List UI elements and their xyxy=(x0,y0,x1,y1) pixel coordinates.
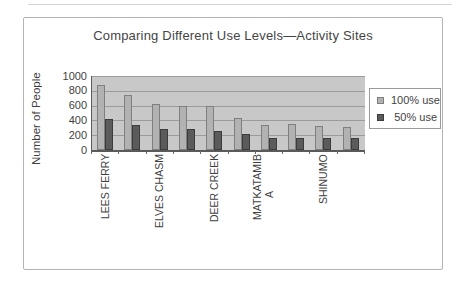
x-category-label-shinumo: SHINUMO xyxy=(317,154,329,234)
x-tick-mark xyxy=(364,151,365,154)
bar-50pct-cat4 xyxy=(187,129,195,150)
scanned-page: Comparing Different Use Levels—Activity … xyxy=(0,0,466,291)
bar-50pct-cat6 xyxy=(242,134,250,150)
bar-100pct-cat2 xyxy=(124,95,132,151)
x-tick-mark xyxy=(200,151,201,154)
x-category-label-deer-creek: DEER CREEK xyxy=(208,154,220,234)
x-tick-mark xyxy=(146,151,147,154)
x-tick-mark xyxy=(173,151,174,154)
bar-50pct-cat9 xyxy=(323,138,331,150)
y-tick-label-800: 800 xyxy=(53,84,87,97)
bar-100pct-cat8 xyxy=(288,124,296,150)
bar-100pct-cat3 xyxy=(152,104,160,150)
bar-50pct-cat10 xyxy=(351,138,359,150)
x-category-label-matkatamiba: MATKATAMIB xyxy=(251,154,263,234)
y-axis-title: Number of People xyxy=(30,63,45,175)
bar-50pct-cat1 xyxy=(105,119,113,150)
legend-label-100pct: 100% use xyxy=(391,94,437,106)
legend-item-50pct: 50% use xyxy=(377,111,440,123)
x-tick-mark xyxy=(337,151,338,154)
gridline-600 xyxy=(92,106,365,107)
x-tick-mark xyxy=(228,151,229,154)
scan-artifact-line xyxy=(28,4,452,5)
bar-50pct-cat7 xyxy=(269,138,277,150)
y-tick-label-0: 0 xyxy=(53,144,87,157)
x-tick-mark xyxy=(282,151,283,154)
y-tick-label-600: 600 xyxy=(53,99,87,112)
bar-50pct-cat8 xyxy=(296,138,304,150)
gridline-800 xyxy=(92,91,365,92)
bar-100pct-cat7 xyxy=(261,125,269,150)
bar-100pct-cat9 xyxy=(315,126,323,150)
legend-item-100pct: 100% use xyxy=(377,94,440,106)
y-tick-label-1000: 1000 xyxy=(53,70,87,83)
gridline-1000 xyxy=(92,76,365,77)
legend-label-50pct: 50% use xyxy=(391,111,437,123)
x-category-label-lees-ferry: LEES FERRY xyxy=(99,154,111,234)
chart-frame: Comparing Different Use Levels—Activity … xyxy=(23,17,443,270)
bar-100pct-cat4 xyxy=(179,106,187,150)
bar-100pct-cat6 xyxy=(234,118,242,150)
x-category-label-matkatamiba-line2: A xyxy=(263,154,275,234)
bar-100pct-cat10 xyxy=(343,127,351,150)
x-tick-mark xyxy=(118,151,119,154)
x-tick-mark xyxy=(91,151,92,154)
x-tick-mark xyxy=(309,151,310,154)
chart-title: Comparing Different Use Levels—Activity … xyxy=(24,28,442,43)
bar-50pct-cat2 xyxy=(132,125,140,150)
y-tick-label-200: 200 xyxy=(53,129,87,142)
bar-50pct-cat3 xyxy=(160,129,168,150)
bar-50pct-cat5 xyxy=(214,131,222,150)
legend-swatch-100pct-icon xyxy=(377,97,384,104)
gridline-400 xyxy=(92,120,365,121)
x-category-label-elves-chasm: ELVES CHASM xyxy=(153,154,165,234)
plot-area xyxy=(91,76,365,152)
legend-swatch-50pct-icon xyxy=(377,114,384,121)
legend: 100% use 50% use xyxy=(369,88,441,129)
y-tick-label-400: 400 xyxy=(53,114,87,127)
bar-100pct-cat5 xyxy=(206,106,214,150)
bar-100pct-cat1 xyxy=(97,85,105,150)
